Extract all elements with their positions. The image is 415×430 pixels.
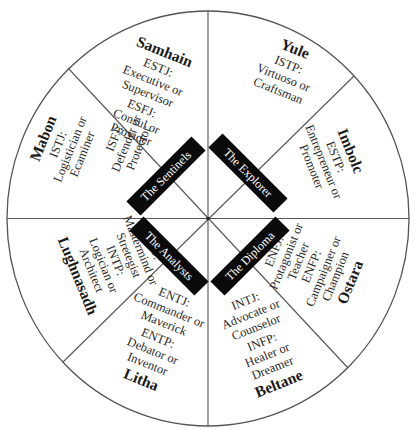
personality-wheel: Samhain ESTJ: Executive or Supervisor ES… — [0, 0, 415, 430]
center-point — [206, 217, 210, 221]
